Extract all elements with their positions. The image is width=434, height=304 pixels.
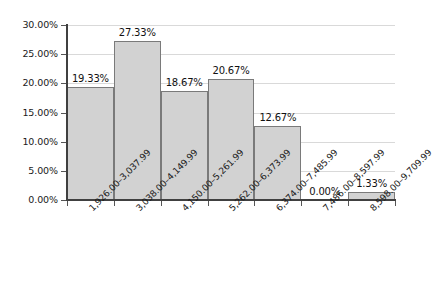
gridline	[67, 25, 395, 26]
bar-value-label: 12.67%	[259, 112, 296, 123]
y-tick-label-wrap: 10.00%	[0, 136, 58, 148]
bar-value-label: 20.67%	[213, 65, 250, 76]
bar-value-label: 1.33%	[356, 178, 387, 189]
bar-value-label: 27.33%	[119, 27, 156, 38]
x-tick-mark	[114, 201, 115, 206]
bar-value-label: 18.67%	[166, 77, 203, 88]
y-tick-label-wrap: 20.00%	[0, 77, 58, 89]
y-tick-label: 15.00%	[22, 107, 58, 118]
y-axis-line	[66, 24, 68, 201]
y-tick-label: 10.00%	[22, 136, 58, 147]
y-tick-label: 5.00%	[28, 165, 58, 176]
x-tick-mark	[208, 201, 209, 206]
y-tick-label-wrap: 25.00%	[0, 48, 58, 60]
x-tick-mark	[67, 201, 68, 206]
x-tick-mark	[161, 201, 162, 206]
plot-area	[67, 25, 395, 200]
y-tick-label: 30.00%	[22, 19, 58, 30]
y-tick-label-wrap: 0.00%	[0, 194, 58, 206]
y-tick-label: 25.00%	[22, 48, 58, 59]
y-tick-label: 0.00%	[28, 194, 58, 205]
y-tick-label-wrap: 30.00%	[0, 19, 58, 31]
x-tick-mark	[301, 201, 302, 206]
x-tick-mark	[395, 201, 396, 206]
y-tick-label-wrap: 15.00%	[0, 107, 58, 119]
bar-value-label: 0.00%	[309, 186, 340, 197]
y-tick-label-wrap: 5.00%	[0, 165, 58, 177]
bar	[67, 87, 114, 200]
x-tick-mark	[254, 201, 255, 206]
y-tick-label: 20.00%	[22, 77, 58, 88]
x-tick-mark	[348, 201, 349, 206]
bar-value-label: 19.33%	[72, 73, 109, 84]
